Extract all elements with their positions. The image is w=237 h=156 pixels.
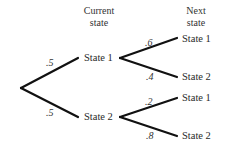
node-next-s1-state2: State 2 xyxy=(182,71,211,83)
prob-s1-state1: .6 xyxy=(145,38,153,48)
header-current-state: Current state xyxy=(74,5,124,29)
prob-s2-state1: .2 xyxy=(145,97,153,107)
header-next-line1: Next xyxy=(180,5,212,17)
prob-root-state2: .5 xyxy=(46,108,54,118)
header-current-line1: Current xyxy=(74,5,124,17)
header-next-line2: state xyxy=(180,17,212,29)
node-next-s1-state1: State 1 xyxy=(182,33,211,45)
node-next-s2-state1: State 1 xyxy=(182,92,211,104)
header-next-state: Next state xyxy=(180,5,212,29)
header-current-line2: state xyxy=(74,17,124,29)
prob-s2-state2: .8 xyxy=(146,131,154,141)
prob-s1-state2: .4 xyxy=(146,72,154,82)
node-next-s2-state2: State 2 xyxy=(182,130,211,142)
prob-root-state1: .5 xyxy=(46,58,54,68)
node-current-state2: State 2 xyxy=(84,111,113,123)
node-current-state1: State 1 xyxy=(84,52,113,64)
